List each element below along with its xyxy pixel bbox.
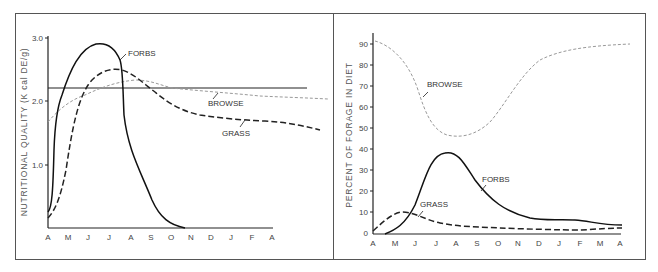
x-ticks: A M J J A S O N D J F M A	[370, 239, 623, 248]
svg-text:20: 20	[359, 187, 368, 196]
svg-text:N: N	[515, 239, 521, 248]
y-ticks: 90 80 70 60 50 40 30 20 10 0	[359, 40, 373, 238]
forbs-label: FORBS	[482, 175, 510, 184]
diet-composition-chart: 90 80 70 60 50 40 30 20 10 0 PERCENT OF …	[0, 0, 658, 272]
svg-text:F: F	[578, 239, 583, 248]
svg-text:0: 0	[364, 229, 369, 238]
svg-text:60: 60	[359, 103, 368, 112]
svg-text:M: M	[597, 239, 604, 248]
svg-text:A: A	[453, 239, 459, 248]
svg-text:90: 90	[359, 40, 368, 49]
svg-text:M: M	[392, 239, 399, 248]
svg-text:70: 70	[359, 82, 368, 91]
y-axis-title: PERCENT OF FORAGE IN DIET	[344, 62, 354, 207]
browse-label: BROWSE	[427, 80, 463, 89]
svg-text:A: A	[370, 239, 376, 248]
svg-text:D: D	[536, 239, 542, 248]
svg-text:A: A	[617, 239, 623, 248]
forbs-line	[385, 153, 622, 234]
svg-text:10: 10	[359, 208, 368, 217]
svg-text:80: 80	[359, 61, 368, 70]
svg-text:J: J	[434, 239, 438, 248]
svg-text:S: S	[474, 239, 479, 248]
svg-text:O: O	[495, 239, 501, 248]
svg-text:30: 30	[359, 166, 368, 175]
svg-text:J: J	[413, 239, 417, 248]
svg-text:J: J	[557, 239, 561, 248]
grass-label: GRASS	[420, 200, 448, 209]
browse-line	[375, 41, 630, 136]
svg-text:50: 50	[359, 124, 368, 133]
svg-text:40: 40	[359, 145, 368, 154]
